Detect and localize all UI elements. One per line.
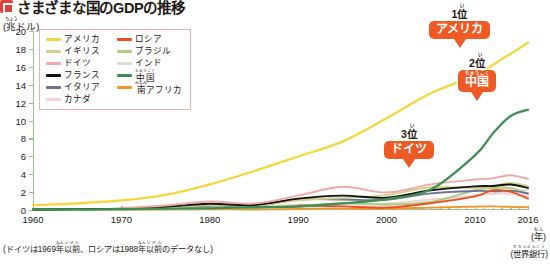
- x-tick-label: 1980: [199, 214, 220, 225]
- x-tick-label: 2016: [517, 214, 538, 225]
- legend-item-フランス[interactable]: フランス: [46, 70, 114, 81]
- legend-swatch-中国: [117, 74, 132, 77]
- callout-rank-1-badge[interactable]: アメリカ: [429, 21, 490, 39]
- y-tick-label: 12: [15, 97, 26, 108]
- y-unit-ruby: ちょう: [5, 16, 17, 21]
- legend-label-フランス: フランス: [64, 71, 100, 80]
- chart-footnote: (ドイツは1969年ねん以前いぜん、ロシアは1988年ねん以前いぜんのデータなし…: [3, 241, 213, 254]
- callout-rank-3-label: 3位い: [384, 123, 434, 140]
- red-square-icon: [0, 0, 13, 13]
- legend-item-南アフリカ[interactable]: 南みなみアフリカ: [117, 82, 185, 93]
- page-title-text: さまざまな国のGDPの推移: [17, 0, 185, 17]
- legend-item-イタリア[interactable]: イタリア: [46, 82, 114, 93]
- legend-swatch-ブラジル: [117, 50, 132, 53]
- legend-item-インド[interactable]: インド: [117, 58, 185, 69]
- legend-item-ブラジル[interactable]: ブラジル: [117, 46, 185, 57]
- legend-swatch-イギリス: [46, 50, 61, 53]
- y-tick-label: 14: [15, 79, 26, 90]
- callout-rank-2: 2位い 中国ちゅうごく: [458, 52, 496, 92]
- x-tick-label: 2010: [464, 214, 485, 225]
- callout-rank-3: 3位い ドイツ: [384, 123, 434, 159]
- y-tick-label: 20: [15, 26, 26, 37]
- legend-item-中国[interactable]: 中国ちゅうごく: [117, 70, 185, 81]
- legend-item-ドイツ[interactable]: ドイツ: [46, 58, 114, 69]
- legend-label-アメリカ: アメリカ: [64, 35, 100, 44]
- legend-label-イタリア: イタリア: [64, 83, 100, 92]
- y-tick-label: 18: [15, 43, 26, 54]
- callout-rank-2-label: 2位い: [458, 52, 496, 69]
- legend-label-ドイツ: ドイツ: [64, 59, 91, 68]
- callout-rank-2-country: 中国: [465, 75, 489, 89]
- legend-item-empty: [117, 94, 185, 105]
- legend-label-イギリス: イギリス: [64, 47, 100, 56]
- x-tick-label: 1970: [111, 214, 132, 225]
- x-axis-unit: (年ねん): [531, 227, 546, 243]
- legend-item-イギリス[interactable]: イギリス: [46, 46, 114, 57]
- legend-swatch-南アフリカ: [117, 86, 132, 89]
- callout-rank-1-country: アメリカ: [436, 22, 483, 36]
- legend-swatch-ロシア: [117, 38, 132, 41]
- legend-label-カナダ: カナダ: [64, 95, 91, 104]
- legend-swatch-イタリア: [46, 86, 61, 89]
- series-line-中国: [33, 110, 528, 210]
- legend-label-南アフリカ: 南みなみアフリカ: [135, 81, 182, 95]
- chart-legend: アメリカロシアイギリスブラジルドイツインドフランス中国ちゅうごくイタリア南みなみ…: [39, 29, 191, 110]
- y-tick-label: 4: [21, 169, 26, 180]
- x-tick-label: 2000: [376, 214, 397, 225]
- y-tick-label: 16: [15, 61, 26, 72]
- legend-item-ロシア[interactable]: ロシア: [117, 34, 185, 45]
- chart-source: (世界銀行せかいぎんこう): [510, 245, 548, 259]
- callout-rank-1-label: 1位い: [429, 3, 490, 20]
- y-tick-label: 10: [15, 115, 26, 126]
- legend-swatch-ドイツ: [46, 62, 61, 65]
- x-tick-label: 1990: [288, 214, 309, 225]
- callout-rank-1: 1位い アメリカ: [429, 3, 490, 39]
- legend-swatch-インド: [117, 62, 132, 65]
- x-tick-label: 1960: [22, 214, 43, 225]
- callout-rank-3-country: ドイツ: [391, 142, 427, 156]
- legend-label-ロシア: ロシア: [135, 35, 162, 44]
- legend-swatch-カナダ: [46, 98, 61, 101]
- legend-swatch-アメリカ: [46, 38, 61, 41]
- callout-rank-3-badge[interactable]: ドイツ: [384, 141, 434, 159]
- callout-rank-2-badge[interactable]: 中国ちゅうごく: [458, 70, 496, 92]
- legend-swatch-フランス: [46, 74, 61, 77]
- page-title: さまざまな国のGDPの推移: [0, 0, 185, 16]
- legend-label-ブラジル: ブラジル: [135, 47, 171, 56]
- legend-label-インド: インド: [135, 59, 162, 68]
- y-tick-label: 2: [21, 187, 26, 198]
- y-tick-label: 6: [21, 151, 26, 162]
- y-tick-label: 8: [21, 133, 26, 144]
- legend-item-カナダ[interactable]: カナダ: [46, 94, 114, 105]
- legend-item-アメリカ[interactable]: アメリカ: [46, 34, 114, 45]
